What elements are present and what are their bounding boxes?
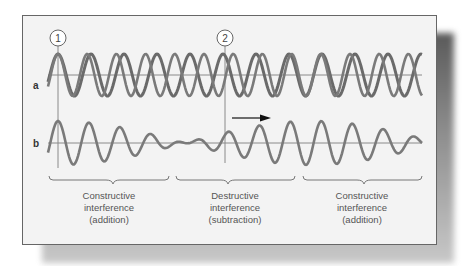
brace-left [49, 176, 169, 184]
marker-2-label: 2 [222, 33, 228, 44]
brace-right [303, 176, 422, 184]
wave-diagram: 1 2 [0, 0, 462, 266]
direction-arrow-icon [260, 115, 271, 122]
brace-middle [176, 176, 295, 184]
caption-destructive: Destructive interference (subtraction) [175, 190, 295, 226]
caption-constructive-right: Constructive interference (addition) [302, 190, 422, 226]
row-label-b: b [33, 138, 39, 149]
marker-1-label: 1 [55, 33, 61, 44]
row-label-a: a [33, 80, 39, 91]
caption-constructive-left: Constructive interference (addition) [49, 190, 169, 226]
